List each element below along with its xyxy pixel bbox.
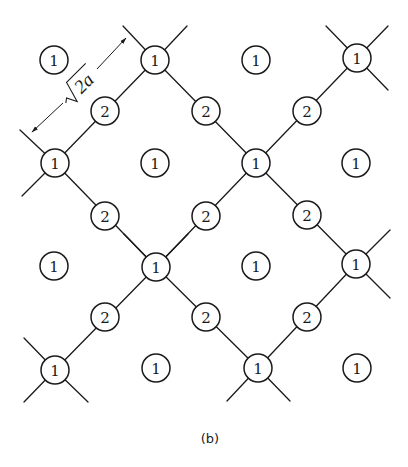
atom-type-label: 1	[50, 362, 60, 380]
atom-type-label: 1	[150, 155, 160, 173]
isolated-atom-type-1: 1	[342, 149, 370, 177]
isolated-atom-type-1: 1	[40, 46, 68, 74]
atom-type-label: 2	[100, 208, 110, 226]
bridge-atom-type-2: 2	[293, 97, 321, 125]
lattice-atom-type-1: 1	[242, 149, 270, 177]
atom-type-label: 1	[251, 52, 261, 70]
atom-type-label: 2	[302, 309, 312, 327]
atom-type-label: 1	[49, 52, 59, 70]
atom-type-label: 1	[251, 258, 261, 276]
atom-type-label: 1	[151, 259, 161, 277]
atom-type-label: 2	[201, 103, 211, 121]
atom-type-label: 2	[302, 207, 312, 225]
bridge-atom-type-2: 2	[192, 97, 220, 125]
lattice-atom-type-1: 1	[342, 250, 370, 278]
bridge-atom-type-2: 2	[192, 202, 220, 230]
bridge-atom-type-2: 2	[192, 303, 220, 331]
bridge-atom-type-2: 2	[91, 303, 119, 331]
isolated-atom-type-1: 1	[242, 46, 270, 74]
dimension-arrow-upper	[97, 38, 126, 69]
bridge-atom-type-2: 2	[91, 97, 119, 125]
atom-type-label: 1	[150, 52, 160, 70]
bridge-atom-type-2: 2	[293, 201, 321, 229]
lattice-atom-type-1: 1	[142, 253, 170, 281]
atom-type-label: 2	[100, 103, 110, 121]
dimension-value: 2a	[69, 69, 97, 97]
lattice-atom-type-1: 1	[141, 46, 169, 74]
lattice-atom-type-1: 1	[343, 44, 371, 72]
atom-type-label: 2	[201, 309, 211, 327]
atom-type-label: 2	[201, 208, 211, 226]
atom-type-label: 1	[351, 155, 361, 173]
crystal-lattice-diagram: 2a 1111111122222222211111111 (b)	[0, 0, 408, 467]
lattice-atom-type-1: 1	[41, 356, 69, 384]
dimension-arrow-lower	[32, 103, 63, 132]
atom-type-label: 1	[351, 256, 361, 274]
atom-type-label: 1	[49, 258, 59, 276]
atom-type-label: 2	[302, 103, 312, 121]
atom-type-label: 1	[251, 155, 261, 173]
isolated-atom-type-1: 1	[142, 354, 170, 382]
atom-type-label: 1	[352, 50, 362, 68]
isolated-atom-type-1: 1	[141, 149, 169, 177]
bridge-atom-type-2: 2	[293, 303, 321, 331]
lattice-atom-type-1: 1	[244, 354, 272, 382]
atom-type-label: 1	[151, 360, 161, 378]
isolated-atom-type-1: 1	[242, 252, 270, 280]
atom-type-label: 1	[50, 155, 60, 173]
figure-caption: (b)	[201, 431, 219, 446]
lattice-atom-type-1: 1	[41, 149, 69, 177]
isolated-atom-type-1: 1	[40, 252, 68, 280]
atom-type-label: 1	[253, 360, 263, 378]
atom-type-label: 2	[100, 309, 110, 327]
bridge-atom-type-2: 2	[91, 202, 119, 230]
isolated-atom-type-1: 1	[343, 354, 371, 382]
atom-type-label: 1	[352, 360, 362, 378]
